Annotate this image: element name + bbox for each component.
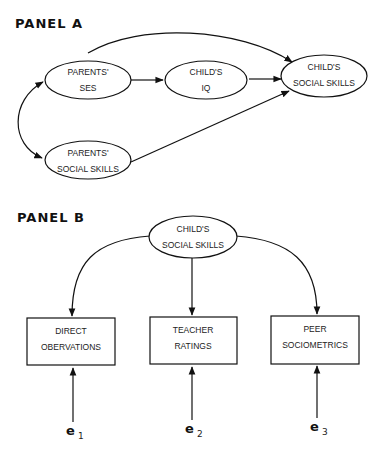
svg-text:2: 2: [197, 429, 203, 439]
indicator-2-line2: RATINGS: [174, 341, 211, 351]
edge-parents-ss-to-child-ss: [131, 91, 289, 162]
indicator-3-line1: PEER: [303, 324, 326, 334]
node-parents-ss-line1: PARENTS': [67, 148, 109, 158]
svg-text:e: e: [66, 423, 75, 438]
edge-latent-to-direct: [72, 236, 150, 316]
node-childs-social-skills: CHILD'S SOCIAL SKILLS: [281, 55, 367, 97]
node-childs-ss-line2: SOCIAL SKILLS: [293, 78, 355, 88]
svg-text:e: e: [310, 419, 319, 434]
node-childs-iq-line2: IQ: [202, 83, 211, 93]
latent-line1: CHILD'S: [177, 224, 210, 234]
indicator-direct-observations: DIRECT OBERVATIONS: [27, 318, 115, 365]
indicator-teacher-ratings: TEACHER RATINGS: [150, 317, 237, 364]
node-childs-ss-line1: CHILD'S: [308, 62, 341, 72]
node-parents-social-skills: PARENTS' SOCIAL SKILLS: [45, 141, 131, 179]
error-term-1: e 1: [66, 423, 84, 441]
path-diagram: PANEL A PARENTS' SES CHILD'S IQ CHILD'S …: [0, 0, 383, 452]
node-childs-iq-line1: CHILD'S: [190, 67, 223, 77]
node-parents-ss-line2: SOCIAL SKILLS: [57, 164, 119, 174]
node-latent-childs-social-skills: CHILD'S SOCIAL SKILLS: [149, 216, 237, 258]
node-parents-ses: PARENTS' SES: [45, 61, 131, 99]
svg-text:3: 3: [322, 427, 328, 437]
svg-text:1: 1: [78, 431, 84, 441]
node-parents-ses-line2: SES: [79, 83, 96, 93]
svg-text:e: e: [185, 421, 194, 436]
indicator-3-line2: SOCIOMETRICS: [282, 340, 348, 350]
latent-line2: SOCIAL SKILLS: [162, 240, 224, 250]
indicator-1-line1: DIRECT: [55, 326, 87, 336]
error-term-2: e 2: [185, 421, 203, 439]
edge-ses-parents-ss-bidirectional: [18, 82, 43, 158]
node-parents-ses-line1: PARENTS': [67, 67, 109, 77]
edge-ses-to-child-ss-curved: [88, 33, 292, 62]
panel-a-title: PANEL A: [15, 16, 83, 31]
node-childs-iq: CHILD'S IQ: [165, 61, 247, 99]
edge-latent-to-peer: [236, 236, 317, 314]
indicator-1-line2: OBERVATIONS: [41, 342, 101, 352]
panel-b-title: PANEL B: [17, 210, 85, 225]
indicator-2-line1: TEACHER: [173, 325, 214, 335]
error-term-3: e 3: [310, 419, 328, 437]
indicator-peer-sociometrics: PEER SOCIOMETRICS: [271, 316, 359, 364]
